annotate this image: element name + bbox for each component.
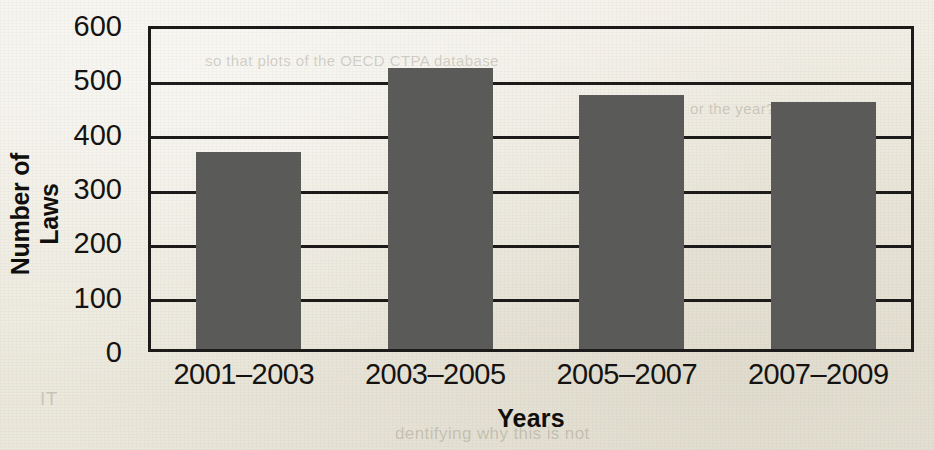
y-axis-tick-label: 500 (0, 66, 136, 95)
bar (388, 68, 493, 349)
x-axis-title: Years (148, 404, 914, 433)
y-axis-tick-label: 100 (0, 283, 136, 312)
y-axis-tick-label: 600 (0, 12, 136, 41)
bar-chart: Number of Laws 0100200300400500600 2001–… (0, 0, 934, 450)
y-axis-tick-label: 0 (0, 338, 136, 367)
bar (196, 152, 301, 349)
bar (579, 95, 684, 349)
plot-area (148, 26, 914, 352)
x-axis-tick-label: 2005–2007 (531, 358, 723, 391)
gridline (151, 82, 911, 85)
y-axis-tick-label: 400 (0, 120, 136, 149)
x-axis-tick-label: 2001–2003 (148, 358, 340, 391)
y-axis-tick-labels: 0100200300400500600 (0, 0, 136, 450)
y-axis-tick-label: 200 (0, 229, 136, 258)
x-axis-tick-label: 2003–2005 (340, 358, 532, 391)
y-axis-tick-label: 300 (0, 175, 136, 204)
x-axis-tick-label: 2007–2009 (723, 358, 915, 391)
x-axis-tick-labels: 2001–20032003–20052005–20072007–2009 (148, 358, 914, 398)
bar (771, 102, 876, 349)
